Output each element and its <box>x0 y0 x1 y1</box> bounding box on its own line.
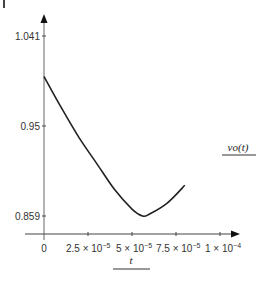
x-tick-label: 2.5 × 10−5 <box>66 242 111 254</box>
y-ticks: 1.041 0.95 0.859 <box>15 31 46 222</box>
x-tick-label: 7.5 × 10−5 <box>156 242 201 254</box>
vo-curve <box>44 77 185 217</box>
x-axis-arrow-icon <box>231 231 240 238</box>
y-axis-arrow-icon <box>41 14 48 23</box>
x-axis-title: t <box>129 254 133 266</box>
y-tick-label: 0.95 <box>21 121 41 132</box>
y-axis-title: vo(t) <box>228 141 249 154</box>
x-ticks: 0 2.5 × 10−5 5 × 10−5 7.5 × 10−5 1 × 10−… <box>41 232 241 254</box>
corner-mark <box>3 0 5 8</box>
y-tick-label: 0.859 <box>15 211 40 222</box>
chart-canvas: 1.041 0.95 0.859 0 2.5 × 10−5 5 × 10−5 7… <box>0 0 274 288</box>
x-tick-label: 1 × 10−4 <box>205 242 241 254</box>
x-tick-label: 5 × 10−5 <box>116 242 152 254</box>
x-tick-label: 0 <box>41 243 47 254</box>
y-tick-label: 1.041 <box>15 31 40 42</box>
